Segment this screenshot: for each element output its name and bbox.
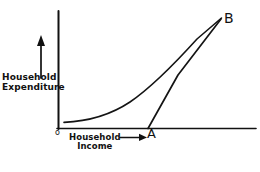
origin-label: o (55, 129, 60, 137)
x-axis-label-line2: Income (77, 141, 112, 151)
arrow-right-icon (120, 134, 147, 141)
x-axis-label: HouseholdIncome (69, 133, 121, 151)
consumption-curve (64, 18, 222, 122)
y-axis-label: HouseholdExpenditure (2, 73, 65, 92)
figure-container: HouseholdExpenditure HouseholdIncome o A… (0, 0, 260, 172)
straight-line-ab (148, 19, 221, 129)
y-axis-label-line1: Household (2, 72, 57, 82)
point-b-label: B (224, 11, 234, 26)
point-a-label: A (147, 127, 156, 141)
y-axis-label-line2: Expenditure (2, 82, 65, 92)
